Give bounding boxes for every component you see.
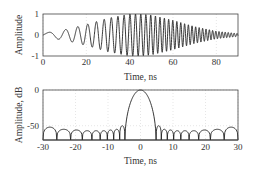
- x-tick-label: 10: [169, 142, 179, 152]
- x-tick-label: 30: [234, 142, 244, 152]
- y-tick-label: 0: [35, 85, 40, 95]
- chirp-waveform-line: [43, 14, 238, 56]
- x-tick-label: 80: [212, 57, 222, 67]
- x-tick-label: 20: [82, 57, 92, 67]
- x-tick-label: 60: [169, 57, 179, 67]
- y-tick-label: 1: [35, 9, 40, 19]
- y-tick-label: -1: [32, 51, 40, 61]
- bottom-x-axis-label: Time, ns: [124, 156, 157, 166]
- top-x-axis-label: Time, ns: [124, 72, 157, 82]
- top-y-axis-label: Amplitude: [14, 15, 24, 56]
- x-tick-label: -30: [37, 142, 49, 152]
- x-tick-label: -10: [102, 142, 114, 152]
- x-tick-label: 0: [138, 142, 143, 152]
- chart-figure: 020406080-101 Time, ns Amplitude -30-20-…: [0, 0, 253, 174]
- bottom-y-axis-label: Amplitude, dB: [14, 87, 24, 143]
- x-tick-label: 0: [41, 57, 46, 67]
- y-tick-label: 0: [35, 30, 40, 40]
- x-tick-label: 20: [201, 142, 211, 152]
- x-tick-label: -20: [70, 142, 82, 152]
- x-tick-label: 40: [125, 57, 135, 67]
- bottom-tick-labels: -30-20-100102030-500: [27, 85, 243, 152]
- bottom-plot-panel: -30-20-100102030-500 Time, ns Amplitude,…: [14, 85, 243, 166]
- top-plot-panel: 020406080-101 Time, ns Amplitude: [14, 9, 238, 82]
- y-tick-label: -50: [27, 121, 39, 131]
